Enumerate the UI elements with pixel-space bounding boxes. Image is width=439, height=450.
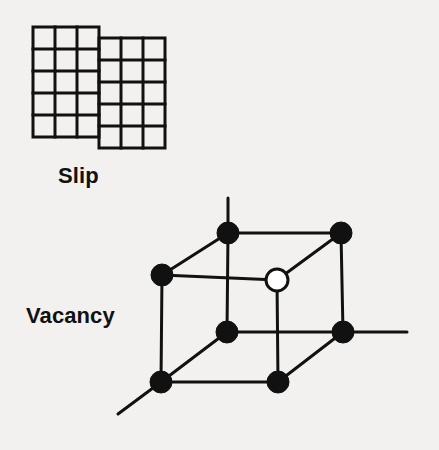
cube-edge [227,233,228,332]
atom-site-bottom-front-right [267,371,289,393]
figure-root: Slip Vacancy [0,0,439,450]
slip-right-block [99,38,165,148]
vacancy-label: Vacancy [26,303,115,329]
cube-edge [161,275,162,382]
figure-canvas [0,0,439,450]
cube-edge [277,280,278,382]
slip-diagram [33,27,165,148]
atom-site-top-back-left [217,222,239,244]
slip-left-block [33,27,99,137]
slip-cell-left-outline [33,27,99,137]
cube-edge [162,275,277,280]
atom-site-top-back-right [330,222,352,244]
cube-edge [341,233,343,332]
slip-label: Slip [58,163,99,189]
cube-edges [161,233,343,382]
atom-site-bottom-front-left [150,371,172,393]
atom-site-bottom-back-right [332,321,354,343]
vacancy-site-top-front-right [266,269,288,291]
atom-site-bottom-back-left [216,321,238,343]
slip-cell-right-outline [99,38,165,148]
vacancy-diagram [118,198,407,414]
atom-site-top-front-left [151,264,173,286]
cube-edge [161,332,227,382]
cube-edge [278,332,343,382]
cube-edge [162,233,228,275]
